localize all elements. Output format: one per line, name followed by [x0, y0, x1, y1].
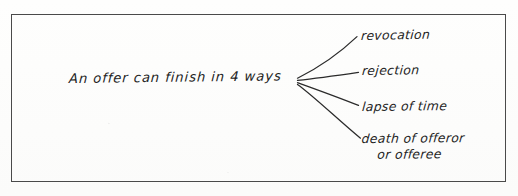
branch-label-death-line-1: death of offeror [361, 130, 465, 146]
branch-label-rejection: rejection [361, 62, 420, 78]
central-statement-text: An offer can finish in 4 ways [69, 68, 283, 86]
branch-label-revocation: revocation [360, 27, 430, 43]
branch-label-death-of-offeror: death of offeroror offeree [360, 130, 465, 164]
diagram-canvas: An offer can finish in 4 ways revocation… [0, 0, 518, 196]
branch-label-lapse-of-time: lapse of time [361, 98, 447, 114]
branch-label-death-line-2: or offeree [360, 146, 464, 163]
